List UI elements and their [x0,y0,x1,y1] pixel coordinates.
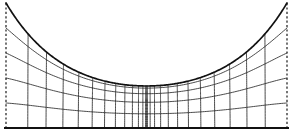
figure-container [0,0,293,135]
vertical-mesh-line-22 [214,72,215,128]
vertical-mesh-line-4 [78,72,79,128]
vertical-mesh-line-3 [63,64,64,128]
vertical-mesh-line-2 [46,52,47,128]
mesh-diagram [0,0,293,135]
horizontal-mesh-curve-1 [6,28,287,88]
vertical-mesh-line-6 [105,81,106,128]
vertical-mesh-line-5 [92,78,93,128]
vertical-mesh-line-21 [200,78,201,128]
vertical-mesh-line-20 [188,81,189,128]
vertical-mesh-line-7 [115,83,116,128]
vertical-mesh-line-19 [177,83,178,128]
vertical-mesh-line-24 [246,52,247,128]
vertical-mesh-line-23 [229,64,230,128]
